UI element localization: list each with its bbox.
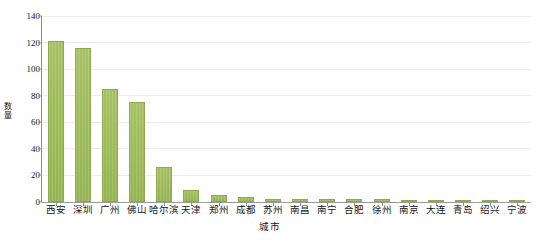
bar (129, 102, 145, 202)
plot-area (42, 16, 531, 202)
x-axis-tick-label: 天津 (181, 204, 201, 216)
y-axis-tick (38, 148, 42, 149)
y-axis-tick (38, 202, 42, 203)
x-axis-tick-label: 南昌 (290, 204, 310, 216)
x-axis-tick-labels: 西安深圳广州佛山哈尔滨天津郑州成都苏州南昌南宁合肥徐州南京大连青岛绍兴宁波 (42, 204, 531, 220)
x-axis-tick-label: 哈尔滨 (149, 204, 179, 216)
bar (211, 195, 227, 202)
bar (75, 48, 91, 202)
x-axis-tick-label: 大连 (426, 204, 446, 216)
x-axis-tick-label: 南京 (399, 204, 419, 216)
y-axis-tick (38, 42, 42, 43)
x-axis-tick-label: 南宁 (317, 204, 337, 216)
x-axis-tick-label: 合肥 (344, 204, 364, 216)
bar-series (42, 16, 531, 202)
x-axis-tick-label: 青岛 (453, 204, 473, 216)
bar-chart: 数量 020406080100120140 西安深圳广州佛山哈尔滨天津郑州成都苏… (0, 0, 539, 243)
x-axis-tick-label: 西安 (46, 204, 66, 216)
y-axis-title: 数量 (0, 83, 14, 139)
x-axis-tick-label: 绍兴 (480, 204, 500, 216)
bar (156, 167, 172, 202)
x-axis-tick-label: 佛山 (127, 204, 147, 216)
x-axis-tick-label: 徐州 (372, 204, 392, 216)
y-axis-tick (38, 175, 42, 176)
y-axis-tick (38, 69, 42, 70)
y-axis-tick (38, 95, 42, 96)
y-axis-tick-labels: 020406080100120140 (14, 0, 40, 243)
bar (102, 89, 118, 202)
y-axis-tick (38, 122, 42, 123)
x-axis-tick-label: 苏州 (263, 204, 283, 216)
y-axis-tick (38, 16, 42, 17)
x-axis-tick-label: 广州 (100, 204, 120, 216)
bar (48, 41, 64, 202)
bar (183, 190, 199, 202)
x-axis-tick-label: 深圳 (73, 204, 93, 216)
x-axis-title: 城市 (0, 222, 539, 233)
x-axis-tick-label: 郑州 (209, 204, 229, 216)
x-axis-tick-label: 宁波 (507, 204, 527, 216)
x-axis-tick-label: 成都 (236, 204, 256, 216)
